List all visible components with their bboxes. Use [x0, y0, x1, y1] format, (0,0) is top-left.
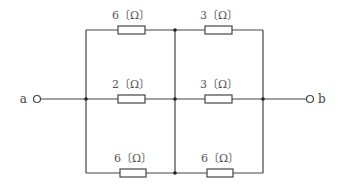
resistor-r5: [120, 169, 146, 177]
junction-middle-top: [173, 28, 177, 32]
resistor-r3: [118, 95, 145, 103]
terminal-a-icon: [34, 96, 41, 103]
resistor-r4: [205, 95, 232, 103]
junction-left-middle: [84, 97, 88, 101]
resistor-r2: [205, 26, 232, 34]
terminal-b-icon: [307, 96, 314, 103]
resistor-r2-label: 3〔Ω〕: [200, 9, 238, 22]
junction-middle-bottom: [173, 171, 177, 175]
resistor-r4-label: 3〔Ω〕: [200, 78, 238, 91]
terminal-a-label: a: [20, 92, 27, 106]
junction-right-middle: [261, 97, 265, 101]
resistor-r1: [118, 26, 145, 34]
junction-middle-middle: [173, 97, 177, 101]
wires: [41, 30, 306, 173]
resistor-r6-label: 6〔Ω〕: [201, 152, 239, 165]
circuit-diagram: 6〔Ω〕 3〔Ω〕 2〔Ω〕 3〔Ω〕 6〔Ω〕 6〔Ω〕 a b: [0, 0, 342, 190]
resistor-r1-label: 6〔Ω〕: [112, 9, 150, 22]
terminal-b-label: b: [318, 92, 326, 106]
resistor-r6: [207, 169, 233, 177]
resistor-r5-label: 6〔Ω〕: [114, 152, 152, 165]
resistor-r3-label: 2〔Ω〕: [112, 78, 150, 91]
